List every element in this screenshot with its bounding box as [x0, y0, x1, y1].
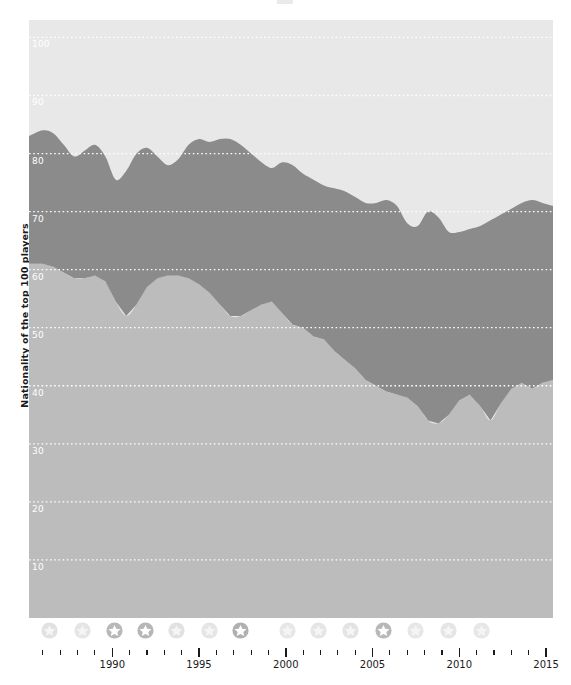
x-tick-major: [285, 648, 286, 657]
star-in-circle-icon: [168, 622, 185, 639]
x-tick-major: [372, 648, 373, 657]
x-tick-minor: [164, 650, 165, 655]
x-tick-minor: [389, 650, 390, 655]
x-tick-minor: [77, 650, 78, 655]
plot-area: 102030405060708090100: [29, 20, 553, 618]
star-in-circle-icon: [74, 622, 91, 639]
y-axis-title: Nationality of the top 100 players: [19, 206, 30, 426]
x-tick-minor: [42, 650, 43, 655]
x-tick-minor: [320, 650, 321, 655]
x-tick-minor: [355, 650, 356, 655]
x-tick-minor: [528, 650, 529, 655]
star-in-circle-icon: [106, 622, 123, 639]
area-bands: [29, 20, 553, 618]
x-tick-minor: [493, 650, 494, 655]
x-tick-minor: [60, 650, 61, 655]
cropped-title-artifact: [277, 0, 293, 4]
star-in-circle-icon: [232, 622, 249, 639]
x-tick-minor: [424, 650, 425, 655]
x-tick-minor: [216, 650, 217, 655]
x-tick-major: [459, 648, 460, 657]
x-tick-label: 1990: [100, 659, 125, 670]
x-tick-minor: [251, 650, 252, 655]
chart-figure: Nationality of the top 100 players 10203…: [0, 0, 571, 685]
x-tick-label: 1995: [186, 659, 211, 670]
x-tick-minor: [476, 650, 477, 655]
x-tick-major: [198, 648, 199, 657]
star-in-circle-icon: [440, 622, 457, 639]
x-tick-minor: [233, 650, 234, 655]
x-tick-minor: [337, 650, 338, 655]
star-in-circle-icon: [473, 622, 490, 639]
star-in-circle-icon: [41, 622, 58, 639]
x-tick-minor: [268, 650, 269, 655]
x-axis: 199019952000200520102015: [0, 618, 571, 685]
x-tick-minor: [146, 650, 147, 655]
x-tick-minor: [511, 650, 512, 655]
star-in-circle-icon: [201, 622, 218, 639]
x-tick-label: 2005: [360, 659, 385, 670]
x-tick-minor: [94, 650, 95, 655]
star-in-circle-icon: [407, 622, 424, 639]
x-tick-label: 2000: [273, 659, 298, 670]
x-tick-minor: [303, 650, 304, 655]
x-tick-minor: [441, 650, 442, 655]
stacked-area-svg: [29, 20, 553, 618]
star-in-circle-icon: [342, 622, 359, 639]
x-tick-major: [112, 648, 113, 657]
x-tick-label: 2015: [533, 659, 558, 670]
star-in-circle-icon: [279, 622, 296, 639]
star-in-circle-icon: [375, 622, 392, 639]
star-in-circle-icon: [310, 622, 327, 639]
x-tick-minor: [407, 650, 408, 655]
x-tick-label: 2010: [447, 659, 472, 670]
x-tick-minor: [129, 650, 130, 655]
x-tick-minor: [181, 650, 182, 655]
x-tick-major: [545, 648, 546, 657]
star-in-circle-icon: [137, 622, 154, 639]
